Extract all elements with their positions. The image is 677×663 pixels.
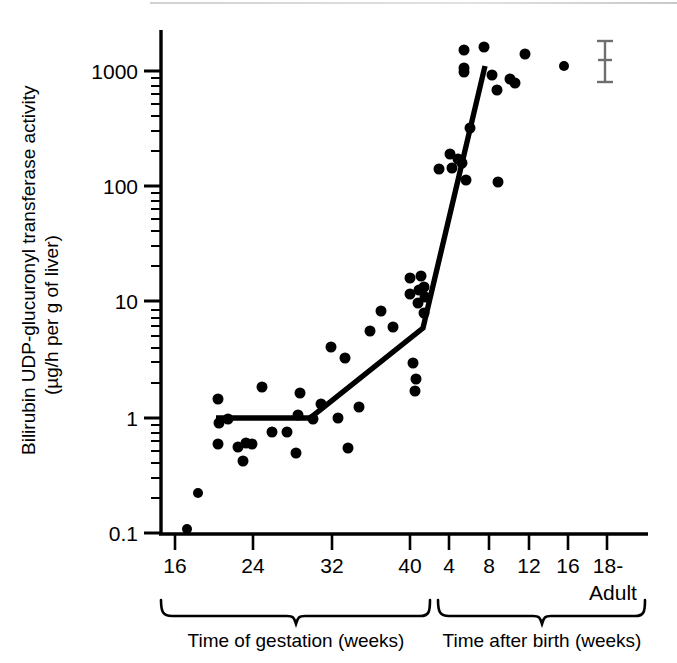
data-point [326,342,337,353]
data-point-layer [182,42,569,535]
data-point [411,374,422,385]
data-point [388,322,399,333]
data-point [333,413,344,424]
x-tick-label-birth-12: 12 [517,554,540,577]
data-point [510,78,521,89]
x-axis-tick-labels: 16 24 32 40 4 8 12 16 18- Adult [163,554,637,604]
data-point [434,164,445,175]
x-tick-label-adult: Adult [589,581,637,604]
data-point [376,306,387,317]
data-point [408,358,419,369]
trend-line [216,66,485,418]
data-point [459,67,470,78]
data-point [223,414,234,425]
data-point [420,292,431,303]
y-axis-tick-labels: 1000 100 10 1 0.1 [91,60,138,545]
y-tick-label-0.1: 0.1 [109,522,138,545]
data-point [247,439,258,450]
data-point [308,414,319,425]
data-point [354,402,365,413]
data-point [487,70,498,81]
data-point [492,85,503,96]
data-point [410,386,421,397]
y-axis-ticks [144,71,161,533]
data-point [465,123,476,134]
y-tick-label-10: 10 [115,290,138,313]
brace-gestation [161,600,430,624]
error-bar [597,41,613,82]
axis-group-braces [161,600,645,624]
bilirubin-transferase-scatter-chart: Bilirubin UDP-glucuronyl transferase act… [0,0,677,663]
data-point [343,443,354,454]
data-point [416,271,427,282]
data-point [479,42,490,53]
y-axis-label: Bilirubin UDP-glucuronyl transferase act… [18,85,62,455]
data-point [419,308,430,319]
data-point [457,158,468,169]
axis-group-captions: Time of gestation (weeks) Time after bir… [188,630,642,651]
x-tick-label-birth-18: 18- [593,554,623,577]
y-axis-label-line2: (µg/h per g of liver) [41,235,62,395]
data-point [182,524,192,534]
data-point [238,456,249,467]
data-point [559,61,569,71]
axis-spines [159,30,648,534]
data-point [193,488,203,498]
data-point [459,45,470,56]
data-point [267,427,278,438]
figure-panel: Bilirubin UDP-glucuronyl transferase act… [0,0,677,663]
x-tick-label-gestation-40: 40 [398,554,421,577]
x-tick-label-birth-8: 8 [483,554,495,577]
data-point [291,448,302,459]
data-point [365,326,376,337]
data-point [282,427,293,438]
data-point [293,410,304,421]
x-tick-label-birth-4: 4 [443,554,455,577]
x-tick-label-birth-16: 16 [556,554,579,577]
caption-after-birth: Time after birth (weeks) [443,630,642,651]
y-tick-label-1: 1 [126,407,138,430]
x-tick-label-gestation-32: 32 [320,554,343,577]
data-point [419,282,430,293]
data-point [340,353,351,364]
x-tick-label-gestation-24: 24 [241,554,265,577]
data-point [213,439,224,450]
data-point [520,49,531,60]
x-axis-ticks [175,534,607,550]
x-tick-label-gestation-16: 16 [163,554,186,577]
caption-gestation: Time of gestation (weeks) [188,630,405,651]
data-point [213,394,224,405]
data-point [461,175,472,186]
y-axis-label-line1: Bilirubin UDP-glucuronyl transferase act… [18,85,39,455]
y-tick-label-100: 100 [103,175,138,198]
data-point [493,177,504,188]
y-tick-label-1000: 1000 [91,60,138,83]
data-point [405,273,416,284]
data-point [316,399,327,410]
data-point [447,163,458,174]
trend-line-group [216,66,485,418]
data-point [295,388,306,399]
data-point [257,382,268,393]
